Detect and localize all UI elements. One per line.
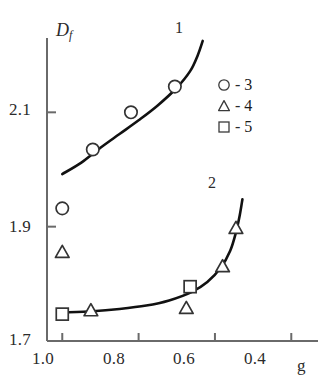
- square-point-5-0: [56, 308, 68, 320]
- y-axis-title-main: D: [56, 20, 69, 40]
- circle-marker-icon: [216, 77, 232, 93]
- legend-label-3: 3: [244, 76, 252, 94]
- legend-label-4: 4: [244, 97, 252, 115]
- curve-2: [62, 199, 242, 312]
- legend-dash-5: -: [235, 118, 240, 136]
- legend: - 3 - 4 - 5: [216, 74, 252, 137]
- legend-item-5: - 5: [216, 116, 252, 137]
- triangle-point-4-0: [55, 245, 69, 257]
- circle-point-3-0: [56, 202, 68, 214]
- circle-point-3-3: [169, 80, 181, 92]
- y-tick-label-2-1: 2.1: [9, 101, 31, 118]
- y-axis-title-subscript: f: [69, 28, 72, 42]
- legend-item-4: - 4: [216, 95, 252, 116]
- legend-dash-4: -: [235, 97, 240, 115]
- triangle-marker-icon: [216, 98, 232, 114]
- triangle-point-4-4: [229, 221, 243, 233]
- triangle-point-4-3: [216, 260, 230, 272]
- curve-label-2: 2: [208, 175, 216, 191]
- chart-figure: Df g 2.1 1.9 1.7 1.0 0.8 0.6 0.4 1 2 - 3…: [0, 0, 326, 392]
- x-axis-title: g: [297, 357, 306, 374]
- y-axis-title: Df: [56, 21, 72, 41]
- triangle-point-4-1: [84, 304, 98, 316]
- legend-label-5: 5: [244, 118, 252, 136]
- curve-label-1: 1: [175, 20, 183, 36]
- legend-item-3: - 3: [216, 74, 252, 95]
- triangle-point-4-2: [180, 301, 194, 313]
- square-marker-icon: [216, 119, 232, 135]
- x-tick-label-1-0: 1.0: [32, 350, 54, 367]
- circle-point-3-1: [87, 143, 99, 155]
- y-tick-label-1-9: 1.9: [9, 218, 31, 235]
- y-tick-label-1-7: 1.7: [9, 331, 31, 348]
- legend-dash-3: -: [235, 76, 240, 94]
- plot-area: [0, 0, 326, 392]
- square-point-5-1: [184, 281, 196, 293]
- circle-point-3-2: [125, 106, 137, 118]
- x-tick-label-0-6: 0.6: [173, 350, 195, 367]
- axis-ticks: [47, 112, 291, 341]
- x-tick-label-0-4: 0.4: [244, 350, 266, 367]
- data-markers: [55, 80, 242, 320]
- x-tick-label-0-8: 0.8: [103, 350, 125, 367]
